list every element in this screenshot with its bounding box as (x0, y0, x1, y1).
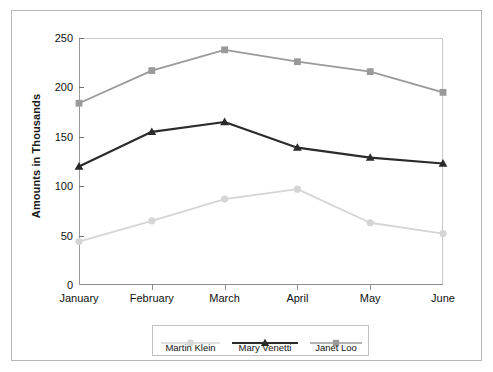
legend-label: Mary Venetti (226, 342, 304, 353)
x-tick-label: June (398, 292, 488, 304)
plot-area (79, 38, 443, 285)
y-tick-label: 100 (41, 180, 73, 192)
legend-entry[interactable]: Mary Venetti (226, 326, 304, 357)
chart-figure: Amounts in Thousands 050100150200250 Jan… (0, 0, 493, 372)
chart-legend: Martin KleinMary VenettiJanet Loo (152, 325, 369, 356)
legend-label: Martin Klein (155, 342, 226, 353)
x-tick-mark (152, 285, 153, 290)
y-tick-mark (79, 236, 84, 237)
y-tick-label: 0 (41, 279, 73, 291)
y-tick-mark (79, 38, 84, 39)
legend-label: Janet Loo (304, 342, 368, 353)
y-tick-mark (79, 137, 84, 138)
y-tick-label: 250 (41, 32, 73, 44)
legend-entry[interactable]: Janet Loo (304, 326, 368, 357)
y-tick-mark (79, 87, 84, 88)
y-tick-label: 200 (41, 81, 73, 93)
y-tick-label: 50 (41, 230, 73, 242)
y-tick-mark (79, 186, 84, 187)
x-tick-mark (370, 285, 371, 290)
x-tick-mark (225, 285, 226, 290)
x-tick-mark (297, 285, 298, 290)
legend-entry[interactable]: Martin Klein (155, 326, 226, 357)
y-tick-label: 150 (41, 131, 73, 143)
